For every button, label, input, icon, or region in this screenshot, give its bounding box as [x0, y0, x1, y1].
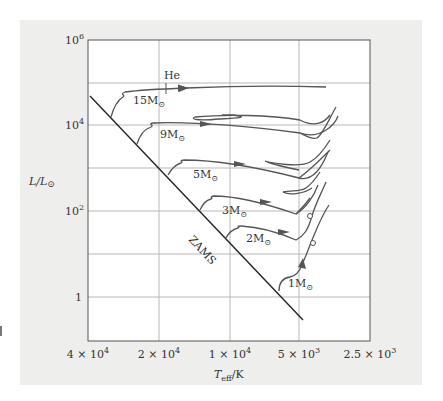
svg-text:2.5 × 103: 2.5 × 103	[344, 346, 397, 361]
y-tick-labels: 106 104 102 1	[65, 32, 84, 304]
svg-text:1 × 104: 1 × 104	[209, 346, 251, 361]
x-tick-labels: 4 × 104 2 × 104 1 × 104 5 × 103 2.5 × 10…	[67, 346, 397, 361]
marker-1msun	[311, 241, 316, 246]
svg-text:5 × 103: 5 × 103	[278, 346, 320, 361]
svg-text:2 × 104: 2 × 104	[138, 346, 180, 361]
he-label: He	[164, 69, 180, 82]
svg-text:1: 1	[75, 291, 82, 304]
svg-text:4 × 104: 4 × 104	[67, 346, 109, 361]
svg-text:104: 104	[65, 117, 84, 132]
marker-2msun	[308, 214, 313, 219]
y-axis-label: L/L⊙	[28, 175, 55, 189]
svg-text:102: 102	[65, 203, 84, 218]
hr-diagram: 106 104 102 1 4 × 104 2 × 104 1 × 104 5 …	[0, 0, 443, 401]
plot-area	[88, 40, 370, 341]
svg-text:106: 106	[65, 32, 84, 47]
x-axis-label: Teff/K	[214, 368, 244, 383]
